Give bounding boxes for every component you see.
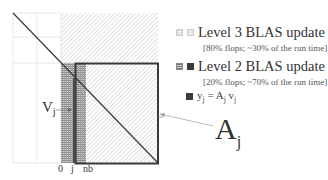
vj-label: Vj — [42, 99, 56, 117]
aj-label: Aj — [215, 114, 241, 157]
aj-arrow — [0, 0, 328, 180]
vj-label-main: V — [42, 99, 53, 115]
aj-arrowhead-icon — [160, 113, 165, 117]
aj-label-main: A — [215, 112, 237, 145]
axis-label-0: 0 — [58, 163, 63, 174]
axis-label-j: j — [71, 163, 74, 174]
axis-label-nb: nb — [83, 163, 93, 174]
vj-label-sub: j — [53, 106, 56, 117]
aj-label-sub: j — [237, 133, 241, 150]
